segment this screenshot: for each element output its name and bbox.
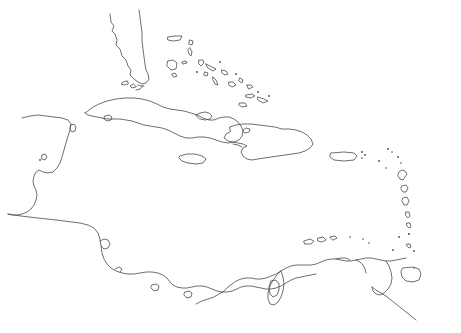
map-background	[0, 0, 461, 333]
map-canvas	[0, 0, 461, 333]
map-outline-svg	[0, 0, 461, 333]
